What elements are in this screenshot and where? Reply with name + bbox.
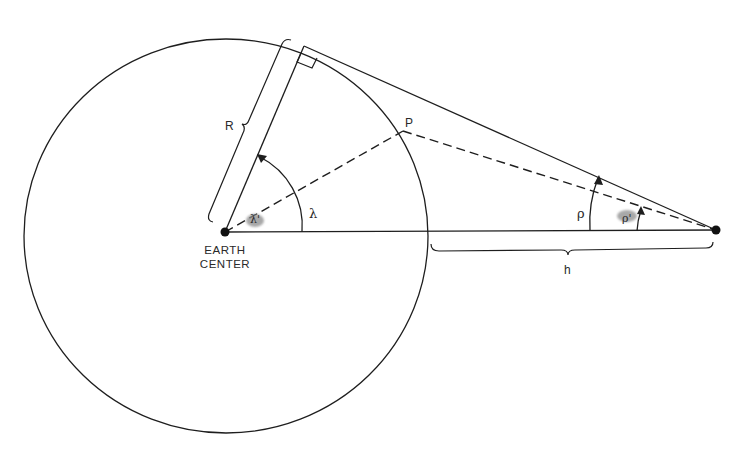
radius-brace bbox=[209, 40, 292, 223]
earth-geometry-diagram: R P λ λ' ρ ρ' h EARTH CENTER bbox=[0, 0, 741, 455]
radius-label: R bbox=[225, 120, 234, 132]
satellite-dot bbox=[712, 226, 721, 235]
diagram-canvas bbox=[0, 0, 741, 455]
nadir-angle-p-label: ρ' bbox=[622, 213, 632, 224]
lambda-arrowhead bbox=[257, 154, 267, 163]
central-angle-max-label: λ' bbox=[250, 214, 260, 225]
earth-center-dot bbox=[221, 228, 230, 237]
altitude-brace bbox=[431, 242, 713, 255]
center-to-satellite-line bbox=[225, 230, 716, 232]
tangent-line bbox=[304, 46, 716, 230]
altitude-label: h bbox=[564, 264, 571, 276]
earth-center-label-line2: CENTER bbox=[192, 257, 258, 271]
p-to-satellite-dashed bbox=[403, 131, 716, 230]
nadir-angle-label: ρ bbox=[577, 207, 585, 220]
lambda-arc bbox=[260, 157, 302, 232]
rho-arc bbox=[590, 178, 598, 231]
earth-center-label-line1: EARTH bbox=[192, 243, 258, 257]
point-p-label: P bbox=[405, 117, 413, 129]
earth-center-label: EARTH CENTER bbox=[192, 243, 258, 272]
central-angle-label: λ bbox=[309, 207, 317, 220]
radius-line bbox=[225, 46, 304, 232]
